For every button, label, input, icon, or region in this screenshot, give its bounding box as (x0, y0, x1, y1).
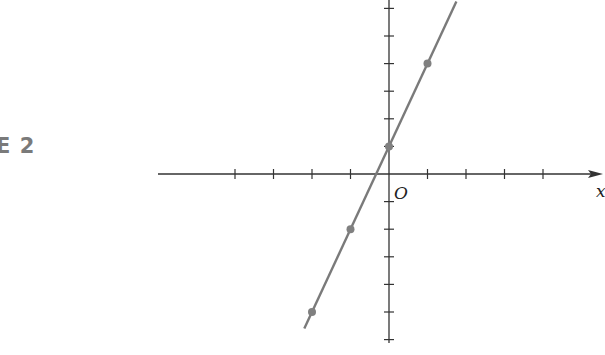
origin-label: O (394, 183, 408, 203)
data-point (424, 60, 432, 68)
graph-line (304, 2, 456, 329)
data-point (385, 142, 393, 150)
data-point (347, 225, 355, 233)
data-point (308, 308, 316, 316)
line-graph: Ox (0, 0, 605, 355)
x-axis-label: x (596, 181, 605, 201)
